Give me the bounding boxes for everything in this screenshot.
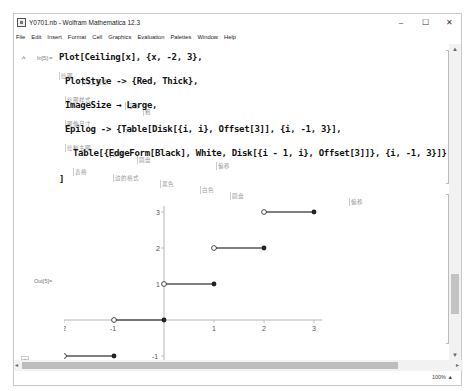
svg-text:-1: -1	[152, 353, 158, 360]
scroll-down-icon[interactable]: ▼	[449, 352, 461, 358]
annotation: 表格	[73, 168, 87, 176]
status-bar: 100% ▲	[14, 371, 463, 386]
code-line-3[interactable]: ImageSize → Large,	[65, 100, 157, 110]
zoom-value: 100%	[432, 374, 446, 380]
collapse-cell-icon[interactable]: ^	[22, 55, 25, 62]
menu-window[interactable]: Window	[197, 34, 218, 40]
notebook-area[interactable]: ^ In[5]:= Plot[Ceiling[x], {x, -2, 3}, 绘…	[14, 44, 451, 360]
output-label: Out[5]=	[34, 278, 52, 284]
code-closing-bracket[interactable]: ]	[59, 174, 64, 184]
menu-palettes[interactable]: Palettes	[170, 34, 191, 40]
mathematica-window: Y0701.nb - Wolfram Mathematica 12.3 – ☐ …	[13, 13, 462, 386]
menu-insert[interactable]: Insert	[47, 34, 62, 40]
close-button[interactable]: ✕	[437, 14, 461, 31]
window-title: Y0701.nb - Wolfram Mathematica 12.3	[29, 19, 140, 26]
menu-format[interactable]: Format	[68, 34, 86, 40]
closed-endpoints	[112, 210, 317, 359]
annotation: 偏移	[216, 162, 230, 170]
menu-help[interactable]: Help	[224, 34, 236, 40]
menu-evaluation[interactable]: Evaluation	[137, 34, 164, 40]
maximize-button[interactable]: ☐	[413, 14, 437, 31]
input-label: In[5]:=	[37, 55, 52, 61]
annotation: 偏移	[349, 198, 363, 206]
menu-graphics[interactable]: Graphics	[108, 34, 131, 40]
horizontal-scrollbar[interactable]: ◂ ▸	[14, 360, 463, 371]
svg-text:3: 3	[156, 209, 160, 216]
menu-bar: File Edit Insert Format Cell Graphics Ev…	[14, 31, 461, 43]
code-line-4[interactable]: Epilog -> {Table[Disk[{i, i}, Offset[3]]…	[65, 124, 341, 134]
open-endpoints	[64, 210, 266, 359]
scroll-up-icon[interactable]: ▲	[449, 46, 461, 52]
y-tick-labels: 3 2 1 -1	[152, 209, 160, 360]
title-bar: Y0701.nb - Wolfram Mathematica 12.3 – ☐ …	[14, 14, 461, 31]
ceiling-plot[interactable]: -2 -1 1 2 3 3 2 1 -1	[64, 200, 334, 360]
menu-cell[interactable]: Cell	[92, 34, 102, 40]
svg-text:-1: -1	[110, 325, 116, 332]
vertical-scrollbar[interactable]: ▲ ▼	[449, 44, 461, 360]
vertical-scroll-thumb[interactable]	[451, 274, 459, 314]
menu-edit[interactable]: Edit	[31, 34, 41, 40]
code-line-5[interactable]: Table[{EdgeForm[Black], White, Disk[{i -…	[73, 148, 447, 158]
code-line-1[interactable]: Plot[Ceiling[x], {x, -2, 3},	[59, 52, 202, 62]
zoom-level[interactable]: 100% ▲	[432, 374, 453, 380]
scroll-right-icon[interactable]: ▸	[456, 361, 459, 368]
mathematica-app-icon	[17, 18, 26, 27]
annotation: 白色	[200, 186, 214, 194]
x-tick-labels: -2 -1 1 2 3	[64, 325, 316, 332]
horizontal-scroll-thumb[interactable]	[22, 362, 398, 369]
svg-text:-2: -2	[64, 325, 66, 332]
svg-text:1: 1	[156, 281, 160, 288]
minimize-button[interactable]: –	[389, 14, 413, 31]
annotation: 圆盘	[230, 192, 244, 200]
svg-text:1: 1	[212, 325, 216, 332]
svg-text:2: 2	[262, 325, 266, 332]
code-line-2[interactable]: PlotStyle -> {Red, Thick},	[65, 76, 198, 86]
annotation: 黑色	[160, 180, 174, 188]
scroll-left-icon[interactable]: ◂	[15, 361, 18, 368]
annotation: 边的格式	[113, 174, 139, 182]
ceiling-steps	[64, 212, 314, 356]
svg-text:2: 2	[156, 245, 160, 252]
menu-file[interactable]: File	[16, 34, 25, 40]
svg-text:3: 3	[312, 325, 316, 332]
x-ticks	[64, 320, 314, 323]
